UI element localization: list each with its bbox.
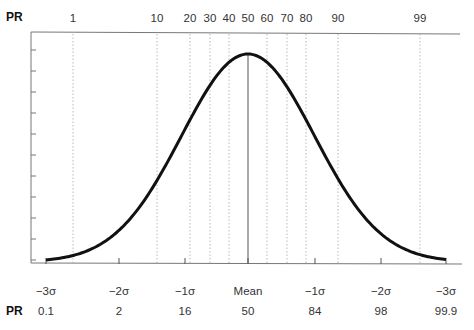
bottom-percentile-value: 99.9	[435, 305, 457, 317]
bottom-percentile-value: 50	[242, 305, 255, 317]
normal-curve-chart	[0, 0, 474, 330]
bottom-percentile-value: 84	[309, 305, 322, 317]
bottom-percentile-value: 16	[179, 305, 192, 317]
y-ticks	[31, 50, 36, 260]
top-percentile-label: 99	[414, 12, 427, 24]
top-percentile-label: 70	[281, 12, 294, 24]
bottom-pr-label: PR	[6, 304, 23, 318]
bottom-percentile-value: 98	[375, 305, 388, 317]
top-percentile-label: 60	[261, 12, 274, 24]
top-border	[31, 32, 460, 34]
top-percentile-label: 1	[70, 12, 76, 24]
top-percentile-label: 80	[300, 12, 313, 24]
sigma-label: −3σ	[436, 285, 456, 297]
top-percentile-label: 40	[223, 12, 236, 24]
bottom-percentile-value: 2	[116, 305, 122, 317]
sigma-label: −1σ	[305, 285, 325, 297]
sigma-label: −3σ	[36, 285, 56, 297]
top-percentile-label: 30	[204, 12, 217, 24]
bottom-percentile-value: 0.1	[38, 305, 54, 317]
top-pr-label: PR	[6, 10, 23, 24]
top-percentile-label: 20	[184, 12, 197, 24]
sigma-label: −2σ	[371, 285, 391, 297]
x-axis	[31, 263, 462, 264]
sigma-label: Mean	[234, 285, 263, 297]
top-percentile-label: 10	[151, 12, 164, 24]
sigma-label: −1σ	[175, 285, 195, 297]
sigma-label: −2σ	[109, 285, 129, 297]
percentile-gridlines	[73, 34, 420, 263]
top-percentile-label: 50	[242, 12, 255, 24]
top-percentile-label: 90	[332, 12, 345, 24]
normal-curve	[46, 54, 446, 260]
